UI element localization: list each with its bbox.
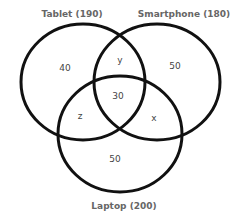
venn-diagram bbox=[0, 0, 239, 220]
tablet-only-value: 40 bbox=[59, 63, 70, 73]
tablet-smartphone-value: y bbox=[117, 55, 122, 65]
all-three-value: 30 bbox=[112, 91, 123, 101]
laptop-set-label: Laptop (200) bbox=[91, 201, 156, 211]
smartphone-set-label: Smartphone (180) bbox=[138, 9, 230, 19]
smartphone-circle bbox=[94, 24, 220, 140]
tablet-set-label: Tablet (190) bbox=[41, 9, 102, 19]
laptop-only-value: 50 bbox=[109, 154, 120, 164]
tablet-circle bbox=[21, 24, 145, 140]
smartphone-laptop-value: x bbox=[151, 113, 156, 123]
smartphone-only-value: 50 bbox=[169, 61, 180, 71]
tablet-laptop-value: z bbox=[78, 111, 83, 121]
